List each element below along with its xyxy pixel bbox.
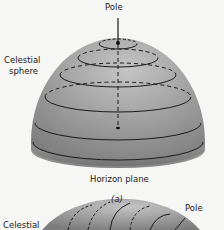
horizon-plane-label: Horizon plane xyxy=(90,174,149,184)
caption-a: (a) xyxy=(111,194,123,204)
celestial-label-b: Celestial xyxy=(3,220,39,230)
pole-label-a: Pole xyxy=(105,2,123,12)
pole-label-b: Pole xyxy=(185,203,203,213)
celestial-label-a: Celestial xyxy=(4,55,40,65)
sphere-label-a: sphere xyxy=(9,66,38,76)
dome-a xyxy=(31,18,205,168)
